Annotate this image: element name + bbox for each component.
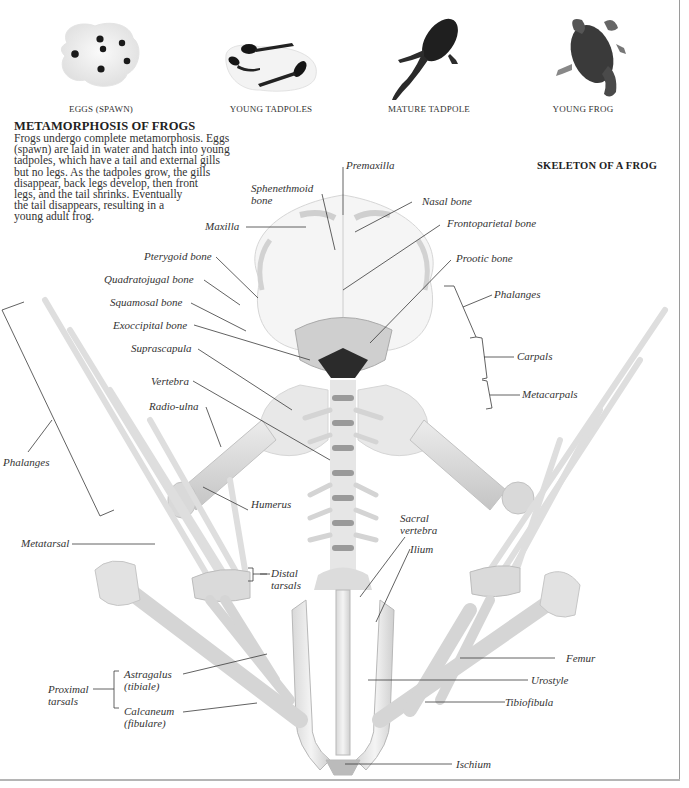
label-exoccipital-bone: Exoccipital bone [113,319,187,331]
label-ilium: Ilium [410,543,433,555]
label-astragalus-2: (tibiale) [124,680,159,692]
label-femur: Femur [566,652,595,664]
label-nasal-bone: Nasal bone [422,195,472,207]
leader-lines [0,0,689,788]
label-urostyle: Urostyle [531,674,568,686]
label-calcaneum-2: (fibulare) [124,717,166,729]
label-proximal-tarsals-2: tarsals [48,695,78,707]
label-proximal-tarsals-1: Proximal [48,683,89,695]
label-sphenethmoid-2: bone [251,194,272,206]
label-carpals: Carpals [517,350,552,362]
label-prootic-bone: Prootic bone [456,252,513,264]
label-distal-tarsals-2: tarsals [271,579,301,591]
label-tibiofibula: Tibiofibula [505,696,553,708]
label-sacral-vertebra-2: vertebra [400,524,437,536]
label-metatarsal: Metatarsal [21,537,69,549]
label-astragalus-1: Astragalus [124,668,172,680]
label-sphenethmoid-1: Sphenethmoid [251,182,313,194]
label-frontoparietal-bone: Frontoparietal bone [447,217,536,229]
label-calcaneum-1: Calcaneum [124,705,174,717]
label-ischium: Ischium [456,758,491,770]
label-squamosal-bone: Squamosal bone [110,296,182,308]
label-quadratojugal-bone: Quadratojugal bone [104,273,194,285]
label-metacarpals: Metacarpals [522,388,578,400]
label-suprascapula: Suprascapula [131,342,192,354]
label-vertebra: Vertebra [151,375,189,387]
label-sacral-vertebra-1: Sacral [400,512,429,524]
label-radio-ulna: Radio-ulna [149,400,199,412]
label-maxilla: Maxilla [205,220,239,232]
label-humerus: Humerus [251,498,291,510]
label-premaxilla: Premaxilla [346,159,394,171]
label-distal-tarsals-1: Distal [271,567,298,579]
label-phalanges-right: Phalanges [494,288,540,300]
label-pterygoid-bone: Pterygoid bone [144,250,212,262]
label-phalanges-left: Phalanges [3,456,49,468]
